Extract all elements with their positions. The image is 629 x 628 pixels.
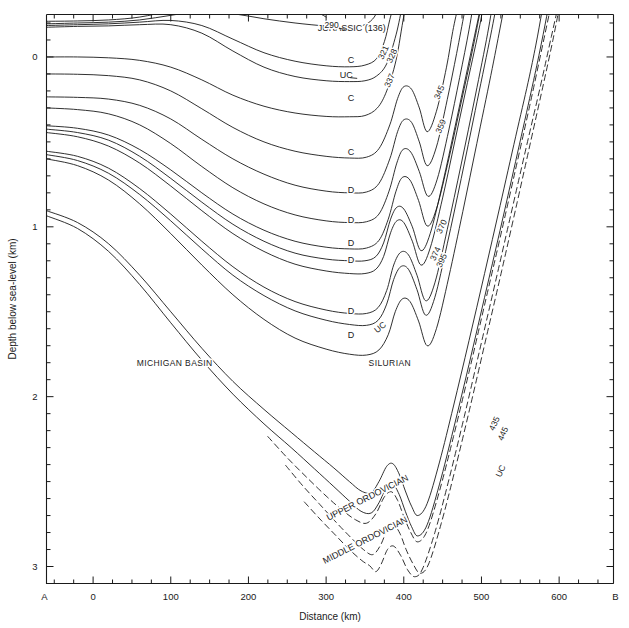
y-tick-label: 3 — [32, 561, 37, 572]
endpoint-label-b: B — [612, 591, 618, 602]
svg-text:C: C — [348, 93, 355, 103]
horizon-d1 — [47, 0, 476, 223]
age-label: UCUC — [493, 463, 507, 478]
unit-label: DD — [348, 330, 355, 340]
svg-text:UC: UC — [493, 463, 507, 478]
x-axis-title: Distance (km) — [299, 611, 361, 622]
svg-text:C: C — [348, 55, 355, 65]
svg-text:D: D — [348, 185, 355, 195]
svg-text:C: C — [348, 147, 355, 157]
horizon-d2 — [47, 0, 485, 249]
horizon-h290 — [47, 0, 327, 21]
age-label: 345345 — [432, 84, 447, 101]
region-label: MICHIGAN BASINMICHIGAN BASIN — [137, 358, 213, 368]
age-label: 290290 — [324, 20, 338, 30]
svg-text:D: D — [348, 215, 355, 225]
region-label: SILURIANSILURIAN — [369, 358, 411, 368]
svg-text:359: 359 — [433, 117, 448, 134]
unit-label: UPPER ORDOVICIANUPPER ORDOVICIAN — [325, 473, 410, 523]
age-label: 337337 — [382, 72, 397, 89]
tick-labels: 01230100200300400500600AB — [32, 51, 618, 601]
x-tick-label: 100 — [163, 591, 179, 602]
unit-label: DD — [348, 185, 355, 195]
svg-text:SILURIAN: SILURIAN — [369, 358, 411, 368]
svg-text:345: 345 — [432, 84, 447, 101]
svg-text:UC: UC — [372, 319, 388, 335]
x-tick-label: 400 — [396, 591, 412, 602]
horizon-middle_ord_dash — [286, 0, 564, 573]
y-tick-label: 2 — [32, 391, 37, 402]
unit-label: DD — [348, 238, 355, 248]
horizon-d3 — [47, 0, 485, 261]
y-axis-title: Depth below sea-level (km) — [7, 238, 18, 359]
unit-label: DD — [348, 255, 355, 265]
horizon-d5 — [47, 0, 494, 314]
x-tick-label: 200 — [241, 591, 257, 602]
horizon-h359 — [47, 0, 470, 193]
horizon-middle_ord_dash2 — [304, 0, 563, 577]
x-tick-label: 0 — [90, 591, 95, 602]
horizon-d4 — [47, 0, 487, 274]
horizon-h435 — [47, 0, 552, 536]
svg-text:UPPER ORDOVICIAN: UPPER ORDOVICIAN — [325, 473, 410, 523]
y-tick-label: 1 — [32, 221, 37, 232]
unit-label: CC — [348, 147, 355, 157]
svg-text:337: 337 — [382, 72, 397, 89]
horizon-curve-group — [47, 0, 564, 577]
unit-label: DD — [348, 306, 355, 316]
horizon-upper_ord_dash — [268, 0, 555, 542]
svg-text:290: 290 — [324, 20, 338, 30]
x-tick-label: 600 — [551, 591, 567, 602]
y-tick-label: 0 — [32, 51, 37, 62]
unit-label: DD — [348, 215, 355, 225]
svg-text:D: D — [348, 330, 355, 340]
unit-label: MIDDLE ORDOVICIANMIDDLE ORDOVICIAN — [321, 514, 409, 565]
axes — [47, 15, 614, 584]
x-tick-label: 500 — [474, 591, 490, 602]
age-label: UCUC — [372, 319, 388, 335]
svg-text:D: D — [348, 238, 355, 248]
x-tick-label: 300 — [318, 591, 334, 602]
unit-label: CC — [348, 93, 355, 103]
svg-text:MICHIGAN BASIN: MICHIGAN BASIN — [137, 358, 213, 368]
svg-text:D: D — [348, 255, 355, 265]
endpoint-label-a: A — [41, 591, 48, 602]
svg-text:D: D — [348, 306, 355, 316]
svg-text:MIDDLE ORDOVICIAN: MIDDLE ORDOVICIAN — [321, 514, 409, 565]
cross-section-svg: 01230100200300400500600ABDistance (km)De… — [0, 0, 629, 628]
unit-label: CC — [348, 55, 355, 65]
axis-lines — [47, 15, 614, 584]
geologic-cross-section-figure: 01230100200300400500600ABDistance (km)De… — [0, 0, 629, 628]
age-label: 359359 — [433, 117, 448, 134]
